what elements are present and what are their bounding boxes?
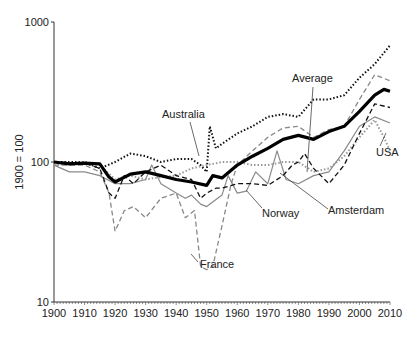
x-tick-label: 1930 [133, 307, 157, 319]
x-tick-label: 1900 [42, 307, 66, 319]
annotation-france: France [200, 258, 234, 270]
y-tick-label: 1000 [25, 16, 49, 28]
annotation-leader [380, 133, 386, 146]
axes: 1900191019201930194019501960197019801990… [25, 16, 403, 319]
y-axis-label: 1900 = 100 [13, 134, 25, 189]
series-australia-line [54, 45, 390, 171]
annotation-leader [246, 190, 262, 208]
x-tick-label: 2010 [378, 307, 402, 319]
x-tick-label: 2000 [347, 307, 371, 319]
line-chart: 1900191019201930194019501960197019801990… [0, 0, 417, 337]
annotation-amsterdam: Amsterdam [328, 204, 384, 216]
annotation-leader [191, 254, 198, 262]
y-tick-label: 100 [31, 156, 49, 168]
series-average-line [54, 89, 390, 185]
annotation-leader [307, 87, 313, 172]
x-tick-label: 1990 [317, 307, 341, 319]
annotation-australia: Australia [162, 108, 206, 120]
series-amsterdam-line [54, 104, 390, 198]
annotation-usa: USA [376, 146, 399, 158]
annotation-leader [280, 173, 328, 209]
x-tick-label: 1960 [225, 307, 249, 319]
annotation-leader [190, 122, 199, 156]
x-tick-label: 1910 [72, 307, 96, 319]
x-tick-label: 1950 [194, 307, 218, 319]
x-tick-label: 1970 [256, 307, 280, 319]
annotation-norway: Norway [262, 207, 300, 219]
x-tick-label: 1940 [164, 307, 188, 319]
x-tick-label: 1980 [286, 307, 310, 319]
y-tick-label: 10 [37, 296, 49, 308]
series-lines [54, 45, 390, 269]
series-norway-line [54, 117, 390, 207]
x-tick-label: 1920 [103, 307, 127, 319]
annotation-average: Average [292, 72, 333, 84]
